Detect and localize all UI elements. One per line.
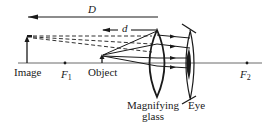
object-label: Object [88, 67, 117, 78]
focal-point-2-subscript: 2 [247, 73, 251, 82]
ray-direction-arrows [170, 35, 176, 70]
focal-point-1-letter: F [61, 68, 68, 80]
focal-point-1-label: F1 [61, 69, 72, 83]
focal-point-1-subscript: 1 [68, 73, 72, 82]
lens-label-line-2: glass [142, 110, 164, 122]
virtual-rays [33, 36, 152, 52]
distance-d-label: d [122, 23, 128, 34]
image-arrow [25, 35, 33, 63]
image-label: Image [14, 67, 41, 78]
eye-label: Eye [188, 100, 205, 111]
distance-D-label: D [88, 4, 96, 15]
focal-point-2-label: F2 [240, 69, 251, 83]
distance-D-arrow [28, 15, 158, 20]
magnifying-glass-label: Magnifying glass [121, 100, 185, 122]
focal-point-2-letter: F [240, 68, 247, 80]
distance-d-arrow [102, 28, 156, 32]
focal-point-2-marker [246, 62, 249, 65]
focal-point-1-marker [64, 62, 67, 65]
eye [182, 24, 196, 104]
magnifying-glass-diagram: D d Image F1 Object Magnifying glass Eye… [0, 0, 274, 130]
